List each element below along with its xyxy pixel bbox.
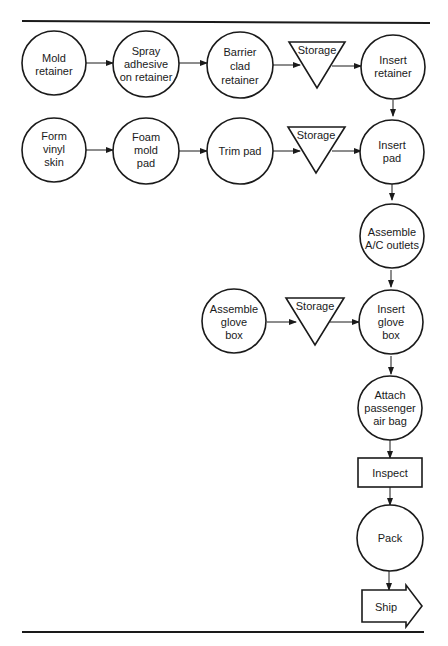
node-spray-adhesive: Sprayadhesiveon retainer xyxy=(113,31,179,97)
node-barrier-clad-retainer: Barriercladretainer xyxy=(207,32,273,98)
node-attach-passenger-air-bag: Attachpassengerair bag xyxy=(358,376,422,440)
node-assemble-glove-box: Assembleglovebox xyxy=(202,289,266,353)
node-label: Pack xyxy=(378,532,403,544)
node-mold-retainer: Moldretainer xyxy=(22,31,86,95)
node-label: Ship xyxy=(375,601,397,613)
node-label: Storage xyxy=(298,44,337,56)
node-insert-glove-box: Insertglovebox xyxy=(359,290,423,354)
top-rule xyxy=(22,21,430,23)
node-label: Storage xyxy=(296,300,335,312)
node-trim-pad: Trim pad xyxy=(207,118,273,184)
node-label: Trim pad xyxy=(219,145,262,157)
node-insert-pad: Insertpad xyxy=(360,120,424,184)
node-label: AssembleA/C outlets xyxy=(365,226,419,251)
node-ship: Ship xyxy=(362,585,422,627)
node-form-vinyl-skin: Formvinylskin xyxy=(22,118,86,182)
node-foam-mold-pad: Foammoldpad xyxy=(113,118,179,184)
node-label: Inspect xyxy=(372,467,407,479)
node-pack: Pack xyxy=(357,505,423,571)
node-inspect: Inspect xyxy=(358,458,422,487)
node-storage-2: Storage xyxy=(288,127,345,173)
node-label: Insertretainer xyxy=(374,54,412,79)
node-label: Formvinylskin xyxy=(41,130,67,168)
node-insert-retainer: Insertretainer xyxy=(361,35,425,99)
node-assemble-ac-outlets: AssembleA/C outlets xyxy=(360,204,424,268)
node-label: Storage xyxy=(297,129,336,141)
process-flow-diagram: Moldretainer Sprayadhesiveon retainer Ba… xyxy=(0,0,448,646)
